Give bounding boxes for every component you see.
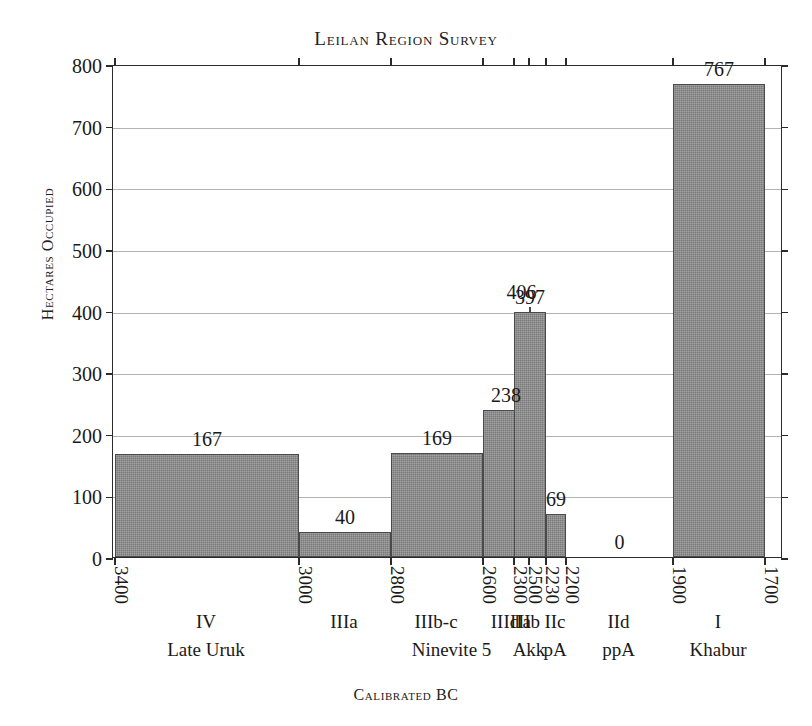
y-tick-label: 600 <box>72 178 102 201</box>
x-tick-mark <box>565 58 566 66</box>
y-tick-mark <box>106 435 113 436</box>
bar-value-label: 167 <box>192 428 222 451</box>
y-tick-mark <box>106 373 113 374</box>
x-tick-mark <box>298 557 299 565</box>
x-tick-mark <box>545 58 546 66</box>
x-tick-mark <box>528 58 529 66</box>
y-tick-label: 800 <box>72 55 102 78</box>
period-label-iic: IIc <box>544 611 565 633</box>
y-tick-mark <box>781 250 788 251</box>
x-tick-label: 2800 <box>386 566 408 604</box>
y-tick-mark <box>106 127 113 128</box>
bar-value-label: 767 <box>704 58 734 81</box>
x-tick-mark <box>390 557 391 565</box>
x-tick-mark <box>513 557 514 565</box>
x-tick-label: 2600 <box>478 566 500 604</box>
plot-area: 0100200300400500600700800 16740169238406… <box>112 65 782 558</box>
y-tick-label: 400 <box>72 301 102 324</box>
y-tick-label: 100 <box>72 486 102 509</box>
x-tick-mark <box>565 557 566 565</box>
x-tick-mark <box>482 58 483 66</box>
period-label-iv: IV <box>196 611 216 633</box>
y-tick-mark <box>106 312 113 313</box>
period-sublabel: Khabur <box>690 639 747 661</box>
x-tick-mark <box>545 557 546 565</box>
x-tick-mark <box>482 557 483 565</box>
y-axis-title: Hectares Occupied <box>39 144 57 364</box>
period-sublabel: ppA <box>602 639 635 661</box>
bar-value-label: 238 <box>491 384 521 407</box>
x-tick-mark <box>672 58 673 66</box>
x-tick-label: 1700 <box>760 566 782 604</box>
period-label-iib: IIb <box>518 611 540 633</box>
x-axis-title: Calibrated BC <box>0 686 812 704</box>
period-label-iiib-c: IIIb-c <box>414 611 457 633</box>
period-sublabel: Akk <box>513 639 546 661</box>
y-tick-mark <box>106 65 113 66</box>
y-tick-mark <box>781 312 788 313</box>
x-tick-label: 2200 <box>561 566 583 604</box>
y-tick-mark <box>781 435 788 436</box>
x-tick-label: 3400 <box>110 566 132 604</box>
x-tick-mark <box>764 557 765 565</box>
y-tick-mark <box>781 373 788 374</box>
page-title: Leilan Region Survey <box>0 28 812 50</box>
period-group-label-ninevite-5: Ninevite 5 <box>412 639 492 661</box>
y-tick-mark <box>106 497 113 498</box>
y-tick-mark <box>106 558 113 559</box>
y-tick-mark <box>781 497 788 498</box>
bar-value-label: 69 <box>546 488 566 511</box>
y-tick-mark <box>781 558 788 559</box>
y-tick-label: 300 <box>72 363 102 386</box>
x-tick-label: 2230 <box>541 566 563 604</box>
period-sublabel: pA <box>543 639 566 661</box>
bar-value-label: 397 <box>515 286 545 309</box>
period-label-iiia: IIIa <box>330 611 357 633</box>
y-tick-mark <box>781 65 788 66</box>
y-tick-label: 0 <box>92 548 102 571</box>
y-tick-mark <box>106 189 113 190</box>
x-tick-mark <box>764 58 765 66</box>
bar-value-label: 0 <box>615 531 625 554</box>
x-tick-label: 1900 <box>668 566 690 604</box>
y-tick-mark <box>781 127 788 128</box>
bar-value-label: 40 <box>335 506 355 529</box>
x-tick-mark <box>390 58 391 66</box>
x-tick-mark <box>528 557 529 565</box>
x-tick-mark <box>513 58 514 66</box>
y-tick-mark <box>781 189 788 190</box>
x-tick-mark <box>114 58 115 66</box>
period-label-i: I <box>715 611 721 633</box>
x-tick-mark <box>114 557 115 565</box>
y-tick-mark <box>106 250 113 251</box>
x-tick-mark <box>298 58 299 66</box>
period-sublabel: Late Uruk <box>167 639 245 661</box>
bar-value-labels: 16740169238406397690767 <box>113 66 781 557</box>
y-tick-label: 500 <box>72 239 102 262</box>
y-tick-label: 200 <box>72 424 102 447</box>
y-tick-label: 700 <box>72 116 102 139</box>
bar-value-label: 169 <box>422 427 452 450</box>
x-tick-label: 3000 <box>294 566 316 604</box>
x-tick-label: 2300 <box>509 566 531 604</box>
x-tick-mark <box>672 557 673 565</box>
period-label-iid: IId <box>607 611 629 633</box>
